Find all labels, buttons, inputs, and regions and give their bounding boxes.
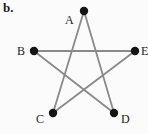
vertex-a bbox=[80, 7, 88, 15]
edge-a-d bbox=[84, 11, 114, 113]
vertex-label-b: B bbox=[17, 45, 25, 57]
edge-b-d bbox=[34, 51, 114, 113]
vertex-label-d: D bbox=[121, 113, 130, 125]
vertex-label-a: A bbox=[65, 14, 74, 26]
edge-c-e bbox=[53, 51, 135, 113]
figure-panel-b: b. A B E C D bbox=[0, 0, 148, 134]
vertex-e bbox=[131, 47, 139, 55]
edge-layer bbox=[34, 11, 135, 113]
vertex-c bbox=[49, 109, 57, 117]
vertex-d bbox=[110, 109, 118, 117]
vertex-label-e: E bbox=[141, 45, 148, 57]
vertex-label-c: C bbox=[36, 113, 44, 125]
vertex-layer bbox=[30, 7, 139, 117]
vertex-b bbox=[30, 47, 38, 55]
